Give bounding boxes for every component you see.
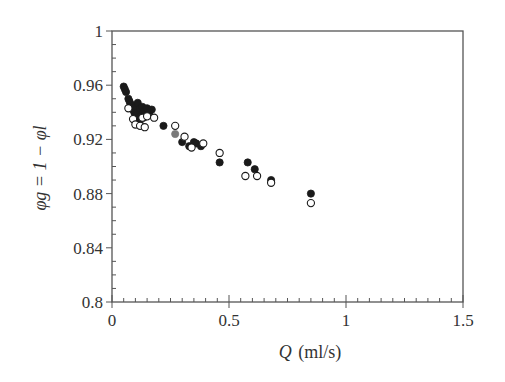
open-data-point — [172, 122, 179, 129]
filled-data-point — [216, 159, 223, 166]
open-data-point — [268, 179, 275, 186]
filled-data-point — [122, 88, 129, 95]
y-tick-label: 0.92 — [73, 130, 103, 149]
x-tick-label: 1.5 — [452, 311, 473, 330]
open-data-point — [242, 172, 249, 179]
y-tick-label: 0.96 — [73, 76, 103, 95]
filled-data-point — [148, 106, 155, 113]
x-axis-title: Q (ml/s) — [279, 342, 342, 363]
y-tick-label: 0.84 — [73, 239, 103, 258]
filled-data-point — [251, 166, 258, 173]
axis-tick-labels: 00.511.50.80.840.880.920.961 — [73, 22, 473, 330]
open-data-point — [151, 114, 158, 121]
plot-frame — [112, 31, 463, 302]
x-axis-unit: (ml/s) — [298, 342, 341, 363]
filled-data-point — [307, 190, 314, 197]
series-open — [125, 105, 315, 207]
open-data-point — [216, 149, 223, 156]
open-data-point — [181, 133, 188, 140]
plot-border — [112, 31, 463, 302]
open-data-point — [144, 113, 151, 120]
y-axis-title: φg = 1 − φl — [30, 125, 50, 210]
x-tick-label: 0 — [108, 311, 117, 330]
filled-data-point — [244, 159, 251, 166]
open-data-point — [141, 124, 148, 131]
y-tick-label: 0.88 — [73, 185, 103, 204]
filled-data-point — [160, 122, 167, 129]
open-data-point — [188, 144, 195, 151]
open-data-point — [253, 172, 260, 179]
open-data-point — [307, 199, 314, 206]
y-tick-label: 0.8 — [82, 293, 103, 312]
series-gray — [172, 130, 179, 137]
filled-data-point — [172, 130, 179, 137]
x-tick-label: 0.5 — [218, 311, 239, 330]
axis-ticks — [106, 31, 463, 308]
data-points — [120, 83, 314, 207]
open-data-point — [125, 105, 132, 112]
x-axis-symbol: Q — [279, 342, 292, 362]
x-tick-label: 1 — [342, 311, 351, 330]
y-tick-label: 1 — [95, 22, 104, 41]
scatter-chart: 00.511.50.80.840.880.920.961 Q (ml/s) φg… — [0, 0, 505, 382]
open-data-point — [200, 140, 207, 147]
series-filled — [120, 83, 314, 197]
